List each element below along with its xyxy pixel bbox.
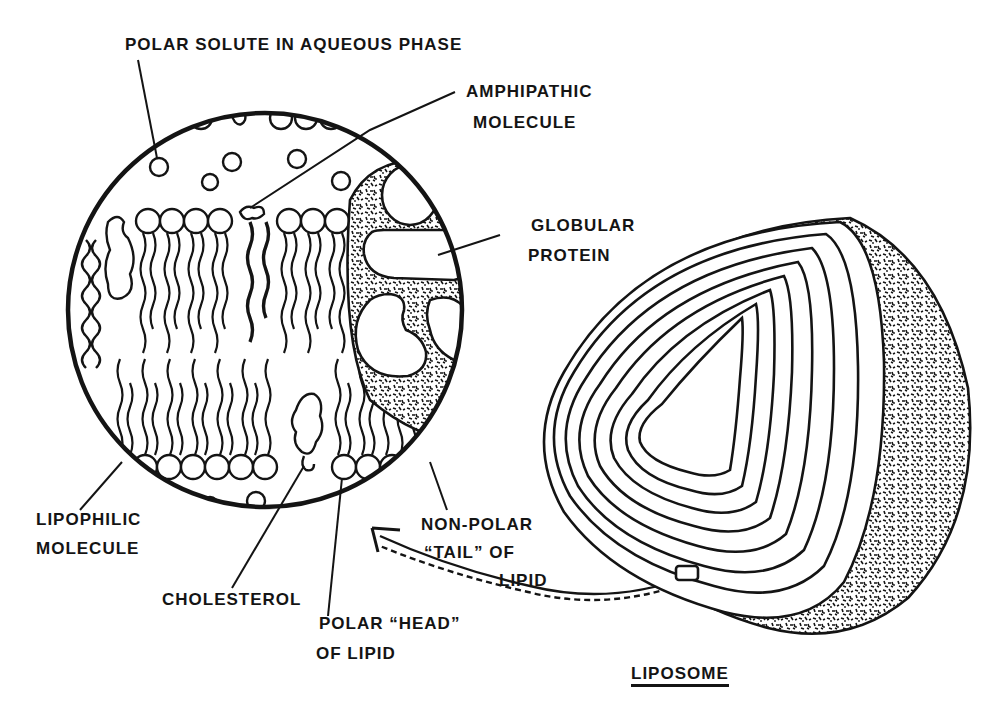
figure-title-liposome: LIPOSOME (631, 662, 729, 686)
label-line: GLOBULAR (531, 214, 635, 238)
cholesterol-shape (292, 394, 322, 454)
label-line: PROTEIN (528, 244, 635, 268)
label-polar-head-of-lipid: POLAR “HEAD” OF LIPID (319, 612, 460, 666)
label-lipophilic-molecule: LIPOPHILIC MOLECULE (36, 508, 141, 561)
label-line: LIPOPHILIC (36, 508, 141, 532)
label-line: NON-POLAR (421, 513, 547, 537)
label-line: POLAR “HEAD” (319, 612, 460, 636)
upper-lipid-tails (141, 222, 345, 353)
label-line: POLAR SOLUTE IN AQUEOUS PHASE (125, 33, 462, 57)
label-nonpolar-tail-of-lipid: NON-POLAR “TAIL” OF LIPID (421, 513, 547, 593)
label-line: “TAIL” OF (424, 541, 547, 565)
liposome-body (544, 218, 970, 634)
label-line: AMPHIPATHIC (466, 80, 593, 104)
label-cholesterol: CHOLESTEROL (162, 588, 301, 612)
label-line: CHOLESTEROL (162, 588, 301, 612)
label-line: MOLECULE (473, 111, 593, 135)
label-polar-solute: POLAR SOLUTE IN AQUEOUS PHASE (125, 33, 462, 57)
globular-protein-shapes (348, 160, 491, 442)
polar-solutes (150, 150, 350, 190)
label-line: OF LIPID (316, 642, 460, 666)
label-line: LIPOSOME (631, 664, 729, 687)
lipophilic-molecule-shape (105, 217, 133, 299)
label-line: MOLECULE (36, 537, 141, 561)
bilayer-membrane-circle (68, 75, 490, 520)
label-globular-protein: GLOBULAR PROTEIN (531, 214, 635, 268)
label-amphipathic-molecule: AMPHIPATHIC MOLECULE (466, 80, 593, 135)
label-line: LIPID (499, 569, 547, 593)
